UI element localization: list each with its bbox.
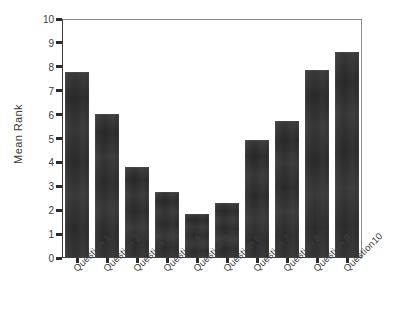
x-axis-tick <box>166 258 169 263</box>
y-axis-tick-label: 5 <box>36 133 54 144</box>
bar-chart: Mean Rank 109876543210 Question 1Questio… <box>0 0 393 321</box>
y-axis-tick-label: 6 <box>36 109 54 120</box>
x-axis-tick <box>286 258 289 263</box>
y-axis-tick-label: 9 <box>36 37 54 48</box>
x-axis-tick <box>106 258 109 263</box>
x-axis-tick <box>76 258 79 263</box>
y-axis-tick-label: 2 <box>36 205 54 216</box>
y-axis-title: Mean Rank <box>8 0 28 268</box>
bar <box>185 214 209 258</box>
y-axis-tick-label: 7 <box>36 85 54 96</box>
y-axis-title-text: Mean Rank <box>12 104 24 164</box>
bar <box>65 72 89 258</box>
x-axis-tick <box>226 258 229 263</box>
x-axis-tick <box>196 258 199 263</box>
x-axis-tick <box>256 258 259 263</box>
bar <box>125 167 149 258</box>
y-axis-tick-label: 4 <box>36 157 54 168</box>
x-axis-tick <box>316 258 319 263</box>
bar <box>305 70 329 258</box>
bar <box>245 140 269 258</box>
bar <box>215 203 239 258</box>
y-axis-tick-label: 3 <box>36 181 54 192</box>
x-axis-tick <box>346 258 349 263</box>
bar <box>275 121 299 258</box>
y-axis-tick-label: 10 <box>36 14 54 25</box>
bar <box>155 192 179 258</box>
bar-series <box>62 19 362 258</box>
y-axis-tick-label: 0 <box>36 253 54 264</box>
bar <box>335 52 359 258</box>
bar <box>95 114 119 258</box>
y-axis-tick-label: 1 <box>36 229 54 240</box>
y-axis-tick-label: 8 <box>36 61 54 72</box>
x-axis-tick <box>136 258 139 263</box>
